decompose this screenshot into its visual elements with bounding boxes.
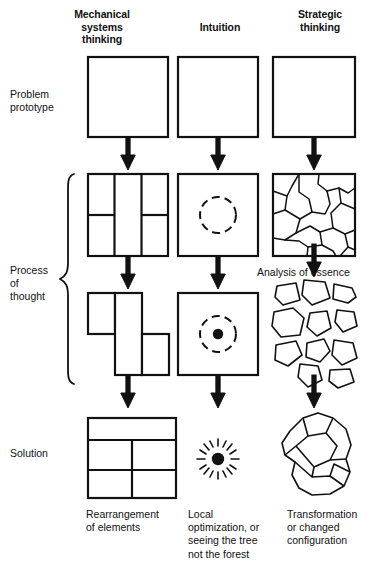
cell-strategic-row1-square — [273, 57, 355, 137]
cell-mechanical-row2-grid — [88, 174, 168, 256]
figure-canvas: Mechanical systems thinking Intuition St… — [0, 0, 379, 571]
cell-strategic-row3-scattered — [272, 280, 357, 388]
arrow-intuition-3-shaft-extension — [216, 375, 220, 389]
cell-mechanical-row3-rearranged — [88, 293, 169, 375]
diagram-vector-layer — [0, 0, 379, 571]
starburst-core-dot — [212, 453, 224, 465]
cell-mechanical-row4-solution — [88, 418, 176, 498]
arrow-intuition-2 — [211, 256, 225, 289]
center-dot-icon — [213, 329, 223, 339]
arrow-mechanical-1 — [121, 137, 135, 170]
process-of-thought-brace — [60, 174, 74, 384]
cell-mechanical-row1-square — [88, 57, 168, 137]
cell-intuition-row3-focus — [178, 293, 258, 375]
arrow-mechanical-2 — [121, 256, 135, 289]
arrow-strategic-1 — [307, 137, 321, 170]
arrow-intuition-1 — [211, 137, 225, 170]
cell-intuition-row2-dashed-circle — [178, 174, 258, 256]
cell-intuition-row4-starburst — [197, 439, 239, 479]
arrow-mechanical-3 — [121, 375, 135, 408]
cell-intuition-row1-square — [178, 57, 258, 137]
cell-strategic-row4-reassembled — [282, 413, 351, 495]
